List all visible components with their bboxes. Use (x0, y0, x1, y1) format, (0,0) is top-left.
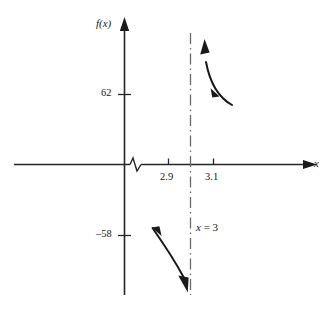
y-tick-label-62: 62 (101, 88, 112, 99)
curve-left-branch-arrowhead-icon (178, 276, 188, 293)
x-tick-label-2-9: 2.9 (160, 172, 173, 183)
y-axis-label: f(x) (96, 18, 111, 29)
x-tick-label-3-1: 3.1 (205, 172, 218, 183)
curve-left-branch (153, 228, 184, 277)
curve-right-branch-arrowhead-icon (200, 39, 209, 55)
axis-break-zigzag-icon (130, 158, 141, 171)
function-graph-figure: f(x) x 62 –58 2.9 3.1 x = 3 (0, 0, 331, 311)
curve-right-branch (206, 62, 232, 105)
y-axis-arrowhead-icon (120, 17, 129, 31)
asymptote-label-equation: = 3 (201, 221, 218, 233)
x-axis-label: x (314, 158, 319, 169)
asymptote-label: x = 3 (196, 222, 218, 233)
graph-canvas (0, 0, 331, 311)
y-tick-label-neg58: –58 (96, 229, 112, 240)
